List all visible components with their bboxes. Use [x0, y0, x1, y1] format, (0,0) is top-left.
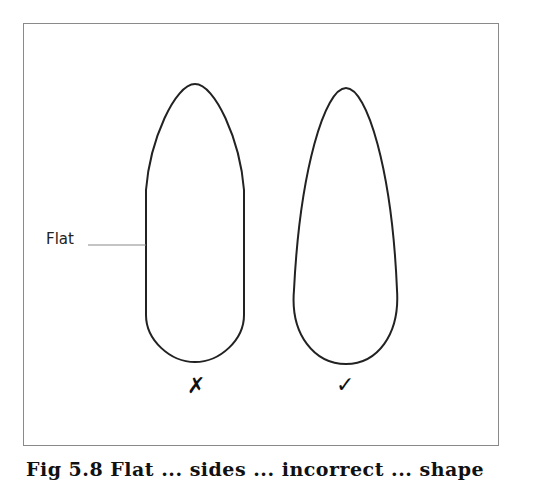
figure-caption: Fig 5.8 Flat ... sides ... incorrect ...… [26, 458, 484, 480]
correct-teardrop-shape [294, 88, 398, 364]
incorrect-flat-shape [146, 84, 244, 362]
cross-mark-icon: ✗ [187, 373, 205, 398]
flat-label: Flat [46, 230, 74, 248]
check-mark-icon: ✓ [336, 372, 354, 397]
